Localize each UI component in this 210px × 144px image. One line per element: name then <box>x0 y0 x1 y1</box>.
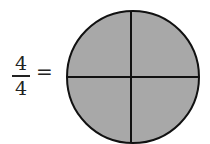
fraction-circle <box>0 0 210 144</box>
